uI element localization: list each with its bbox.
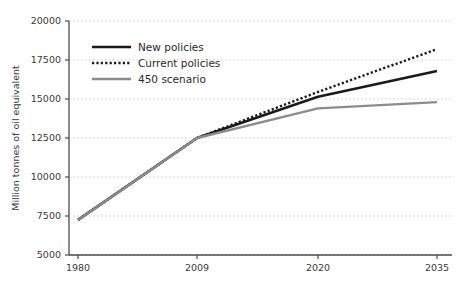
x-axis-tick-label: 2009 <box>185 262 209 273</box>
x-axis-tick-labels: 1980200920202035 <box>66 262 449 273</box>
legend: New policiesCurrent policies450 scenario <box>92 41 220 85</box>
y-axis-tick-label: 7500 <box>37 210 61 221</box>
y-axis-title: Million tonnes of oil equivalent <box>10 65 21 211</box>
y-axis-tick-label: 12500 <box>31 132 61 143</box>
chart-canvas: 500075001000012500150001750020000 198020… <box>0 0 461 289</box>
series-line <box>78 102 437 220</box>
x-axis-tick-label: 2020 <box>306 262 330 273</box>
y-axis-tick-label: 10000 <box>31 171 61 182</box>
line-chart: 500075001000012500150001750020000 198020… <box>0 0 461 289</box>
y-axis-tick-label: 17500 <box>31 54 61 65</box>
x-axis-tick-label: 1980 <box>66 262 90 273</box>
y-axis-tick-labels: 500075001000012500150001750020000 <box>31 15 61 260</box>
x-axis-tick-label: 2035 <box>425 262 449 273</box>
series-line <box>78 71 437 220</box>
legend-label: Current policies <box>138 57 220 69</box>
series-line <box>78 49 437 220</box>
y-axis-tick-label: 15000 <box>31 93 61 104</box>
legend-label: New policies <box>138 41 204 53</box>
legend-label: 450 scenario <box>138 73 206 85</box>
y-axis-tick-label: 20000 <box>31 15 61 26</box>
series-lines <box>78 49 437 220</box>
y-axis-tick-label: 5000 <box>37 249 61 260</box>
gridlines <box>69 21 452 255</box>
